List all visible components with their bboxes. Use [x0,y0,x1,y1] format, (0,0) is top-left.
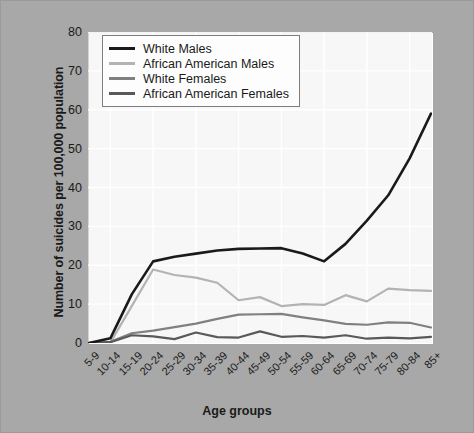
legend-item: African American Females [109,86,289,101]
x-tick-label: 25-29 [159,349,187,377]
x-tick-label: 20-24 [137,349,165,377]
legend-swatch-icon [109,62,135,65]
legend-item: African American Males [109,56,289,71]
legend-label: African American Males [143,57,274,71]
x-tick-label: 40-44 [223,349,251,377]
x-tick-label: 60-64 [308,349,336,377]
legend-item: White Females [109,71,289,86]
x-tick-label: 80-84 [394,349,422,377]
legend-label: African American Females [143,87,289,101]
legend-label: White Males [143,42,212,56]
x-tick-label: 50-54 [265,349,293,377]
x-tick-label: 15-19 [116,349,144,377]
chart-figure: Number of suicides per 100,000 populatio… [0,0,474,433]
x-tick-label: 45-49 [244,349,272,377]
legend-swatch-icon [109,92,135,95]
legend-swatch-icon [109,77,135,80]
x-tick-label: 85+ [422,349,444,371]
chart-legend: White MalesAfrican American MalesWhite F… [102,35,300,107]
x-tick-label: 55-59 [287,349,315,377]
legend-item: White Males [109,41,289,56]
x-tick-label: 10-14 [94,349,122,377]
x-tick-label: 35-39 [201,349,229,377]
legend-swatch-icon [109,47,135,50]
x-axis-title: Age groups [0,404,474,418]
legend-label: White Females [143,72,226,86]
x-tick-label: 65-69 [330,349,358,377]
x-tick-label: 75-79 [372,349,400,377]
